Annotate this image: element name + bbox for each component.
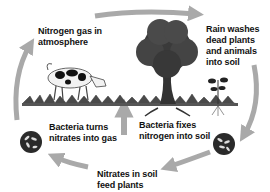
arrow-bottom-right bbox=[168, 152, 210, 167]
small-plant-illustration bbox=[208, 78, 228, 117]
label-bacteria-fixes-nitrogen: Bacteria fixes nitrogen into soil bbox=[139, 120, 210, 142]
arrow-left bbox=[16, 45, 30, 120]
cow-illustration bbox=[47, 64, 106, 100]
label-rain-washes: Rain washes dead plants and animals into… bbox=[206, 24, 259, 68]
arrow-bottom-left bbox=[55, 157, 88, 167]
arrow-top bbox=[95, 12, 196, 16]
label-nitrates-feed-plants: Nitrates in soil feed plants bbox=[97, 169, 157, 191]
bacteria-circle-left bbox=[20, 131, 42, 153]
nitrogen-cycle-diagram: Nitrogen gas in atmosphere Rain washes d… bbox=[0, 0, 270, 192]
label-bacteria-turns-nitrates: Bacteria turns nitrates into gas bbox=[49, 122, 117, 144]
label-nitrogen-gas-atmosphere: Nitrogen gas in atmosphere bbox=[38, 26, 102, 48]
bacteria-circle-right bbox=[213, 133, 235, 155]
arrow-right bbox=[244, 65, 256, 135]
